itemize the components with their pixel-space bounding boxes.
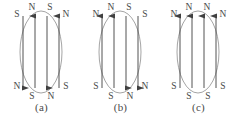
panel-b-diagram: N N S S S S N N [81,0,160,104]
magnetic-domain-figure: S N S N N S N S (a) N [0,0,238,127]
panel-c-caption: (c) [159,101,238,113]
pole-label-c-top-4: N [220,9,227,19]
pole-label-c-bottom-3: S [205,91,210,101]
figure-panel-b: N N S S S S N N (b) [81,0,160,127]
pole-label-b-bottom-1: S [93,81,98,91]
pole-label-b-top-3: S [126,2,131,12]
grain-outline-c [177,11,219,93]
pole-label-b-bottom-4: N [142,81,149,91]
figure-panel-c: N N N N S S S S (c) [159,0,238,127]
pole-label-c-top-2: N [186,2,193,12]
pole-label-c-top-1: N [171,9,178,19]
pole-label-a-top-1: S [14,9,19,19]
grain-outline-a [20,11,62,93]
pole-label-b-top-2: N [108,2,115,12]
figure-panel-a: S N S N N S N S (a) [2,0,81,127]
pole-label-a-top-4: N [63,9,70,19]
pole-label-c-bottom-4: S [220,81,225,91]
pole-label-c-top-3: N [204,2,211,12]
pole-label-b-top-4: S [142,9,147,19]
pole-label-c-bottom-1: S [171,81,176,91]
pole-label-a-bottom-1: N [14,81,21,91]
pole-label-c-bottom-2: S [186,91,191,101]
pole-label-b-bottom-2: S [108,91,113,101]
pole-label-a-bottom-4: S [63,81,68,91]
panel-b-caption: (b) [81,101,160,113]
pole-label-a-top-2: N [29,2,36,12]
panel-a-caption: (a) [2,101,81,113]
grain-outline-b [99,11,141,93]
panel-a-diagram: S N S N N S N S [2,0,81,104]
pole-label-a-bottom-3: N [48,91,55,101]
pole-label-a-bottom-2: S [29,91,34,101]
pole-label-b-bottom-3: N [127,91,134,101]
panel-c-diagram: N N N N S S S S [159,0,238,104]
pole-label-a-top-3: S [47,2,52,12]
pole-label-b-top-1: N [93,9,100,19]
